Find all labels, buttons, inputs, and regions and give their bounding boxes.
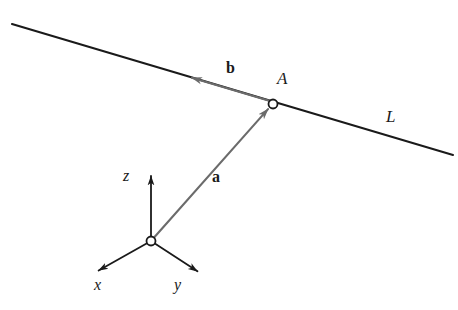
vector-b-arrow <box>192 78 270 101</box>
axis-z-label: z <box>123 168 129 184</box>
origin-marker <box>147 237 156 246</box>
vector-a-label: a <box>212 169 220 185</box>
point-a-marker <box>269 100 278 109</box>
vector-diagram-canvas <box>0 0 458 310</box>
axis-x-arrow <box>99 241 151 271</box>
line-l-label: L <box>386 108 395 125</box>
axis-y-arrow <box>151 241 197 271</box>
vector-a-arrow <box>151 109 268 241</box>
axis-y-label: y <box>174 277 181 293</box>
point-a-label: A <box>277 70 287 87</box>
axis-x-label: x <box>94 277 101 293</box>
vector-b-label: b <box>226 60 235 76</box>
